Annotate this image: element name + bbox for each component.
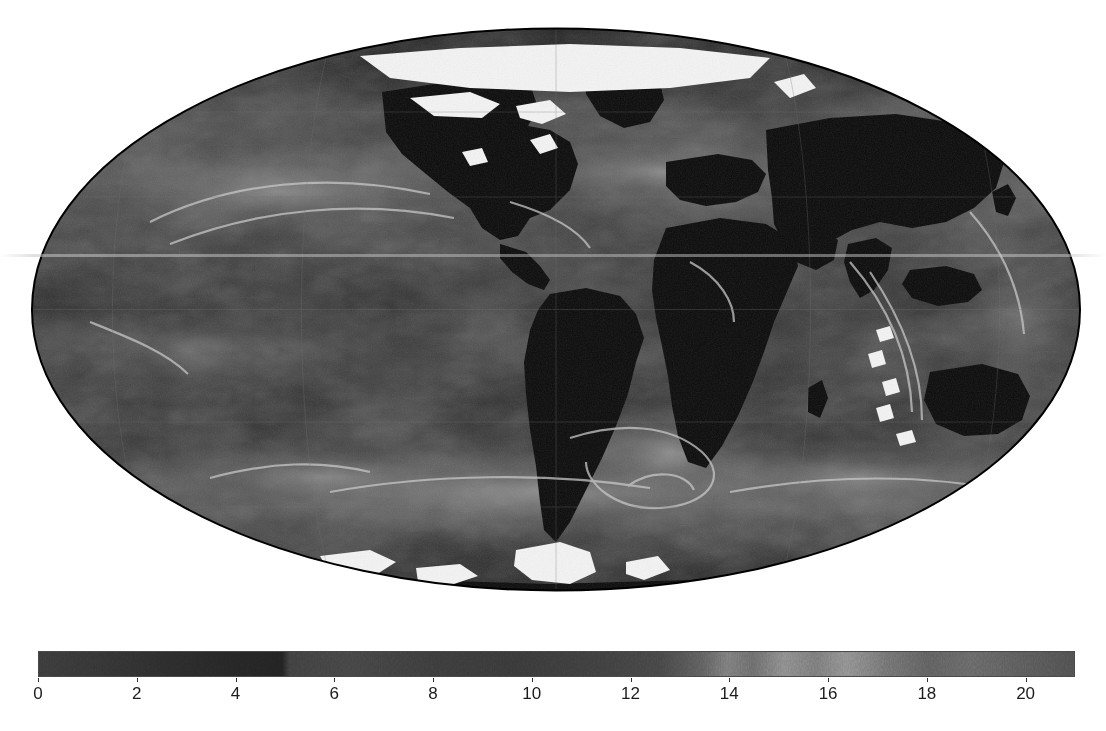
colorbar-tick — [433, 678, 434, 682]
colorbar-noise — [39, 652, 1074, 677]
colorbar-bar — [38, 651, 1075, 677]
colorbar-tick — [137, 678, 138, 682]
colorbar-tick — [927, 678, 928, 682]
colorbar-tick-label: 0 — [33, 684, 42, 704]
colorbar-tick-label: 10 — [522, 684, 541, 704]
colorbar-tick-label: 14 — [720, 684, 739, 704]
colorbar-tick-label: 20 — [1016, 684, 1035, 704]
colorbar-tick-label: 12 — [621, 684, 640, 704]
figure-root: 02468101214161820 — [0, 0, 1106, 731]
colorbar-tick — [532, 678, 533, 682]
colorbar-tick-labels: 02468101214161820 — [38, 684, 1075, 710]
colorbar-tick-label: 8 — [428, 684, 437, 704]
colorbar-tick — [38, 678, 39, 682]
colorbar-tick-label: 2 — [132, 684, 141, 704]
colorbar-tick-label: 16 — [819, 684, 838, 704]
colorbar-tick — [334, 678, 335, 682]
colorbar — [38, 651, 1075, 677]
colorbar-tick-label: 18 — [917, 684, 936, 704]
colorbar-tick — [1026, 678, 1027, 682]
colorbar-tick-label: 4 — [231, 684, 240, 704]
colorbar-tick-label: 6 — [330, 684, 339, 704]
colorbar-tick — [631, 678, 632, 682]
colorbar-tick — [729, 678, 730, 682]
colorbar-tick — [828, 678, 829, 682]
map-panel — [30, 22, 1082, 597]
mollweide-map — [30, 22, 1082, 597]
colorbar-tick — [236, 678, 237, 682]
